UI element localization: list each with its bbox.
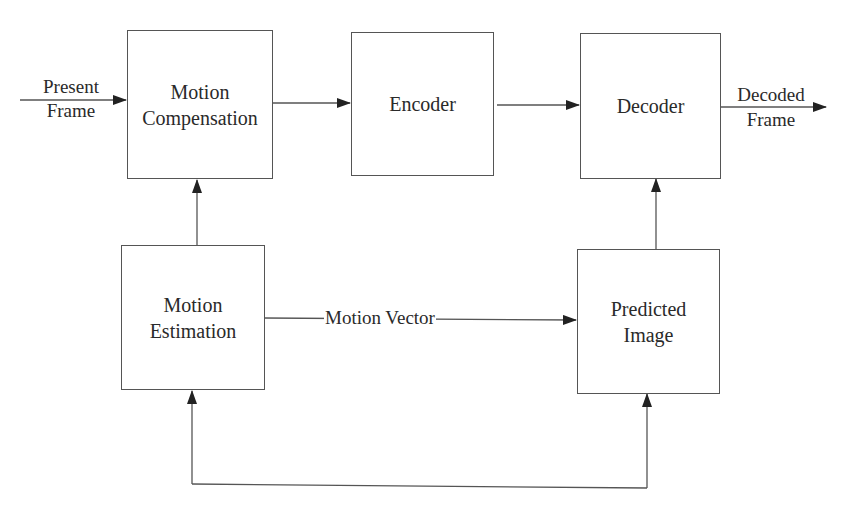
decoded-frame-label: Decoded Frame	[732, 84, 810, 131]
pi-line1: Predicted	[611, 297, 687, 321]
decoder-block: Decoder	[580, 33, 721, 179]
encoder-block: Encoder	[351, 32, 494, 176]
me-line1: Motion	[150, 293, 237, 317]
present-frame-line2: Frame	[36, 100, 106, 122]
motion-vector-label: Motion Vector	[324, 307, 436, 329]
me-line2: Estimation	[150, 319, 237, 343]
predicted-image-block: Predicted Image	[577, 249, 720, 394]
present-frame-line1: Present	[36, 76, 106, 98]
decoder-label: Decoder	[617, 94, 685, 118]
bottom-loop-line	[192, 484, 647, 488]
mc-line2: Compensation	[142, 106, 258, 130]
decoded-frame-line1: Decoded	[732, 84, 810, 106]
decoded-frame-line2: Frame	[732, 109, 810, 131]
present-frame-label: Present Frame	[36, 76, 106, 122]
mc-line1: Motion	[142, 80, 258, 104]
pi-line2: Image	[611, 323, 687, 347]
motion-compensation-block: Motion Compensation	[127, 30, 273, 179]
motion-estimation-block: Motion Estimation	[121, 245, 265, 390]
encoder-label: Encoder	[389, 92, 456, 116]
